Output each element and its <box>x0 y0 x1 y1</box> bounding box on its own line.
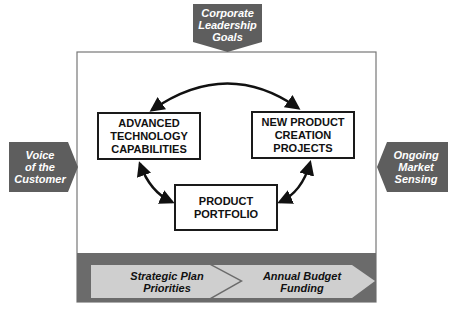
step-annual-budget-funding: Annual Budget Funding <box>248 266 356 297</box>
node-product-portfolio: PRODUCT PORTFOLIO <box>174 184 278 231</box>
input-ongoing-market-sensing: Ongoing Market Sensing <box>384 143 448 191</box>
input-voice-of-customer: Voice of the Customer <box>9 143 71 191</box>
node-advanced-technology: ADVANCED TECHNOLOGY CAPABILITIES <box>97 112 201 160</box>
step-strategic-plan-priorities: Strategic Plan Priorities <box>112 266 222 297</box>
input-corporate-leadership-goals: Corporate Leadership Goals <box>193 5 262 45</box>
node-new-product-creation: NEW PRODUCT CREATION PROJECTS <box>251 111 355 159</box>
